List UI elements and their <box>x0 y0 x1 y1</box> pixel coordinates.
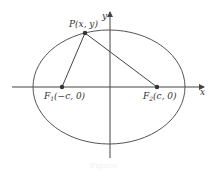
x-axis-label: x <box>200 87 205 97</box>
point-p <box>83 31 87 35</box>
ellipse-diagram: y x P(x, y) F1(−c, 0) F2(c, 0) Figure <box>0 0 215 171</box>
f2-rest: (c, 0) <box>153 91 177 101</box>
segment-p-f1 <box>62 33 85 87</box>
point-f2 <box>155 85 159 89</box>
point-f1-label: F1(−c, 0) <box>43 91 86 102</box>
segment-p-f2 <box>85 33 157 87</box>
point-f1 <box>60 85 64 89</box>
figure-caption: Figure <box>90 161 117 170</box>
y-axis-label: y <box>101 11 108 21</box>
point-p-label: P(x, y) <box>68 19 98 29</box>
f1-rest: (−c, 0) <box>54 91 86 101</box>
point-f2-label: F2(c, 0) <box>142 91 177 102</box>
